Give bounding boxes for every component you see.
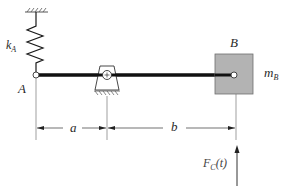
force-argument: (t) — [216, 156, 227, 170]
ground-hatch-top — [25, 8, 48, 12]
label-force: FC(t) — [203, 157, 227, 172]
ground-hatch-pivot — [94, 91, 120, 95]
label-dim-a: a — [70, 121, 77, 134]
pin-b — [231, 72, 237, 78]
force-arrow — [235, 145, 240, 186]
spring-subscript: A — [11, 45, 16, 54]
dim-a-text: a — [70, 120, 77, 135]
pivot-support — [36, 66, 233, 95]
point-a-text: A — [18, 81, 26, 96]
label-spring-kA: kA — [6, 39, 16, 54]
dim-b-text: b — [171, 119, 178, 134]
mechanical-diagram — [0, 0, 287, 187]
label-point-b: B — [230, 36, 238, 49]
mass-symbol: m — [264, 65, 273, 80]
pin-a — [33, 72, 39, 78]
label-dim-b: b — [171, 120, 178, 133]
spring-kA — [27, 12, 43, 73]
label-mass-mB: mB — [264, 66, 278, 82]
point-b-text: B — [230, 35, 238, 50]
label-point-a: A — [18, 82, 26, 95]
mass-subscript: B — [273, 73, 278, 82]
